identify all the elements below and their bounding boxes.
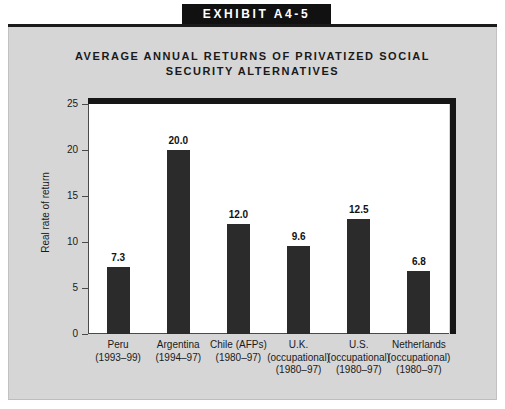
x-axis-category-line: (1980–97) [374,364,464,377]
bar-value-label: 7.3 [88,252,148,263]
y-axis-tick [82,150,88,151]
plot-area [88,103,449,334]
y-axis-tick-label: 10 [18,236,78,247]
y-axis-tick [82,242,88,243]
x-axis-category-label: Netherlands(occupational)(1980–97) [374,339,464,377]
bar [407,271,430,334]
y-axis-tick-label: 25 [18,98,78,109]
bar [347,219,370,334]
bar [167,150,190,334]
y-axis-tick-label: 0 [18,328,78,339]
y-axis-tick-label: 5 [18,282,78,293]
y-axis-tick [82,196,88,197]
bar [287,246,310,334]
bar-value-label: 12.0 [208,209,268,220]
plot-frame-right [450,98,456,334]
x-axis-category-line: (occupational) [374,352,464,365]
bar [227,224,250,334]
plot-frame-top [88,98,456,104]
bar-value-label: 20.0 [148,135,208,146]
exhibit-card: AVERAGE ANNUAL RETURNS OF PRIVATIZED SOC… [8,24,497,400]
y-axis-tick-label: 15 [18,190,78,201]
bar-value-label: 6.8 [389,256,449,267]
exhibit-banner: EXHIBIT A4-5 [182,4,331,25]
y-axis-tick-label: 20 [18,144,78,155]
bar-value-label: 9.6 [269,231,329,242]
y-axis-tick [82,288,88,289]
x-axis-category-line: Netherlands [374,339,464,352]
bar [107,267,130,334]
bar-chart: Real rate of return 2520151050 7.320.012… [8,27,497,403]
bar-value-label: 12.5 [329,204,389,215]
y-axis-tick [82,334,88,335]
y-axis-tick [82,104,88,105]
y-axis-title: Real rate of return [40,153,51,273]
